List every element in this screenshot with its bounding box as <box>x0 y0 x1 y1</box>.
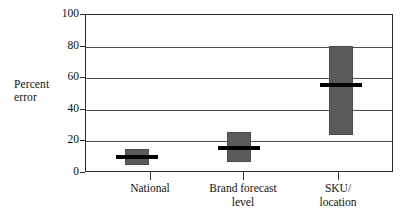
y-axis-tick-labels: 100 80 60 40 20 0 <box>51 14 79 172</box>
x-label-sku-location-line-1: SKU/ <box>288 182 388 196</box>
y-tick-label-100: 100 <box>51 8 79 20</box>
x-label-national-line-1: National <box>100 182 200 196</box>
bar-sku-location <box>329 46 353 135</box>
x-label-sku-location-line-2: location <box>288 196 388 210</box>
y-tick-label-20: 20 <box>51 134 79 146</box>
x-label-national: National <box>100 182 200 196</box>
y-tick-label-80: 80 <box>51 40 79 52</box>
x-tick-mark-national <box>150 172 151 180</box>
x-label-brand-forecast-level-line-1: Brand forecast <box>188 182 298 196</box>
y-tick-mark-0 <box>80 172 85 173</box>
x-label-brand-forecast-level: Brand forecast level <box>188 182 298 209</box>
y-tick-label-60: 60 <box>51 71 79 83</box>
percent-error-range-chart: Percent error 100 80 60 40 20 0 <box>0 0 415 218</box>
x-tick-mark-brand-forecast-level <box>243 172 244 180</box>
median-line-sku-location <box>320 83 362 87</box>
y-tick-label-0: 0 <box>51 166 79 178</box>
median-line-brand-forecast-level <box>218 146 260 150</box>
x-label-brand-forecast-level-line-2: level <box>188 196 298 210</box>
y-tick-label-40: 40 <box>51 103 79 115</box>
x-label-sku-location: SKU/ location <box>288 182 388 209</box>
plot-area <box>85 14 393 172</box>
median-line-national <box>116 155 158 159</box>
x-tick-mark-sku-location <box>338 172 339 180</box>
